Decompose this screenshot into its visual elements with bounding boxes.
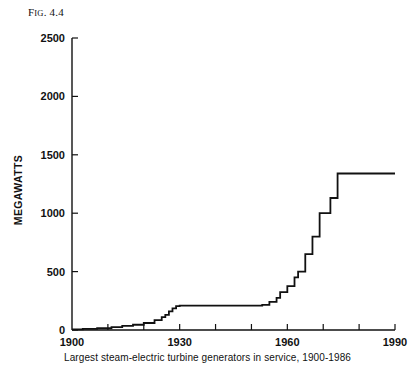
x-tick-labels: 1900193019601990 <box>60 336 407 348</box>
chart-plot: 05001000150020002500 MEGAWATTS 190019301… <box>0 0 415 376</box>
y-tick-labels: 05001000150020002500 <box>41 32 65 336</box>
y-tick-label: 500 <box>47 266 65 278</box>
figure-container: FIG. 4.4 05001000150020002500 MEGAWATTS … <box>0 0 415 376</box>
y-tick-label: 1000 <box>41 207 65 219</box>
y-tick-marks <box>72 38 78 330</box>
x-tick-label: 1960 <box>275 336 299 348</box>
x-tick-label: 1900 <box>60 336 84 348</box>
y-axis: 05001000150020002500 MEGAWATTS <box>12 32 78 336</box>
y-tick-label: 0 <box>59 324 65 336</box>
y-tick-label: 2000 <box>41 90 65 102</box>
x-tick-marks <box>108 324 395 330</box>
data-series-line <box>72 173 395 329</box>
x-tick-label: 1930 <box>167 336 191 348</box>
y-tick-label: 1500 <box>41 149 65 161</box>
chart-caption: Largest steam-electric turbine generator… <box>0 352 415 363</box>
y-axis-title: MEGAWATTS <box>12 155 24 226</box>
x-tick-label: 1990 <box>383 336 407 348</box>
y-tick-label: 2500 <box>41 32 65 44</box>
